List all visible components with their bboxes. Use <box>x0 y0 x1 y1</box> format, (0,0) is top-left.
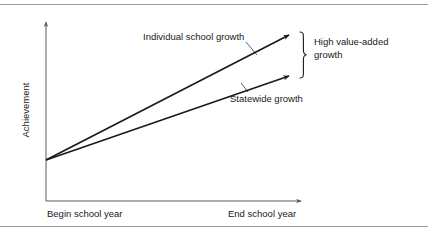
high-value-added-brace <box>300 32 306 78</box>
high-value-added-growth-label: High value-added growth <box>314 36 414 61</box>
individual-school-growth-label: Individual school growth <box>143 31 244 43</box>
individual-growth-leader-line <box>246 42 257 55</box>
y-axis-label: Achievement <box>20 70 32 150</box>
x-axis-begin-label: Begin school year <box>47 208 123 220</box>
statewide-growth-arrow <box>46 76 289 160</box>
value-added-growth-figure: Achievement Begin school year End school… <box>0 0 428 233</box>
x-axis-end-label: End school year <box>228 208 296 220</box>
statewide-growth-label: Statewide growth <box>230 93 303 105</box>
